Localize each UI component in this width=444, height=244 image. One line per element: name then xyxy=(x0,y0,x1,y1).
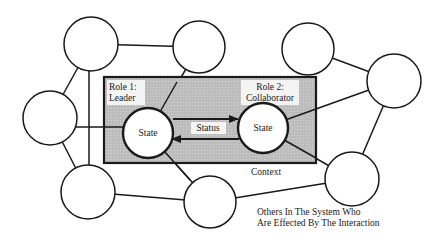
role1-label: Role 1: Leader xyxy=(107,80,145,105)
others-caption-line1: Others In The System Who xyxy=(257,207,361,217)
interaction-diagram: Role 1: Leader Role 2: Collaborator Stat… xyxy=(0,0,444,244)
role1-title: Role 1: xyxy=(109,82,137,92)
role2-label: Role 2: Collaborator xyxy=(241,80,299,105)
node-circle xyxy=(184,176,236,228)
role2-name: Collaborator xyxy=(246,93,295,103)
node-circle xyxy=(325,152,379,206)
node-circle xyxy=(23,91,77,145)
node-circle xyxy=(367,54,421,108)
node-circle xyxy=(173,21,225,73)
role2-title: Role 2: xyxy=(256,82,284,92)
others-caption-line2: Are Effected By The Interaction xyxy=(257,218,380,228)
collaborator-state-label: State xyxy=(254,123,273,133)
collaborator-state: State xyxy=(238,103,288,153)
leader-state-label: State xyxy=(139,128,158,138)
node-circle xyxy=(61,165,115,219)
node-circle xyxy=(64,17,118,71)
leader-state: State xyxy=(123,108,173,158)
context-label: Context xyxy=(251,167,281,177)
node-circle xyxy=(282,23,334,75)
status-label: Status xyxy=(191,122,226,134)
role1-name: Leader xyxy=(109,93,136,103)
status-text: Status xyxy=(196,123,220,133)
